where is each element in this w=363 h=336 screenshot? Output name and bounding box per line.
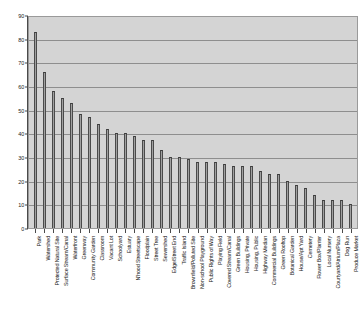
bar — [349, 204, 352, 228]
bar-slot — [328, 17, 337, 228]
y-axis-tick-label: 80 — [18, 37, 24, 43]
y-axis-tick-label: 10 — [18, 202, 24, 208]
bar — [61, 98, 64, 228]
bar — [106, 129, 109, 228]
x-axis-label-slot: Surface Stream/Canal — [57, 236, 66, 336]
x-axis-tick-mark — [125, 229, 126, 233]
bar — [223, 164, 226, 228]
bar-slot — [148, 17, 157, 228]
bar — [295, 185, 298, 228]
x-axis-tick-mark — [216, 229, 217, 233]
bar-slot — [238, 17, 247, 228]
x-axis-labels: ParkWatershedProtected Natural SiteSurfa… — [28, 236, 358, 336]
bar — [169, 157, 172, 228]
x-axis-label-slot: Courtyard/Atrium/Plaza — [329, 236, 338, 336]
bar — [79, 114, 82, 228]
bar — [331, 200, 334, 228]
x-axis-label-slot: Schoolyard — [112, 236, 121, 336]
bar — [43, 72, 46, 228]
x-axis-label-slot: Waterfront — [66, 236, 75, 336]
x-axis-label-slot: Cemetery — [302, 236, 311, 336]
bar-slot — [211, 17, 220, 228]
bar — [52, 91, 55, 228]
x-axis-tick-mark — [62, 229, 63, 233]
bar-slot — [229, 17, 238, 228]
bar — [97, 124, 100, 228]
y-axis-tick-label: 50 — [18, 108, 24, 114]
x-axis-tick-mark — [225, 229, 226, 233]
y-axis-tick-label: 70 — [18, 60, 24, 66]
bar-series — [29, 17, 357, 228]
x-axis-tick-mark — [44, 229, 45, 233]
x-axis-label-slot: House/Apt Yard — [293, 236, 302, 336]
bar-slot — [40, 17, 49, 228]
x-axis-label-slot: N'hood Streetscape — [130, 236, 139, 336]
x-axis-label-slot: Street Tree — [148, 236, 157, 336]
bar — [70, 103, 73, 228]
x-axis-tick-mark — [71, 229, 72, 233]
bar — [115, 133, 118, 228]
x-axis-tick-mark — [53, 229, 54, 233]
x-axis-tick-mark — [170, 229, 171, 233]
x-axis-tick-mark — [351, 229, 352, 233]
bar — [151, 140, 154, 228]
x-axis-label-slot: Commercial Buildings — [266, 236, 275, 336]
bar-slot — [103, 17, 112, 228]
x-axis-tick-mark — [198, 229, 199, 233]
x-axis-tick-mark — [342, 229, 343, 233]
y-axis-tick-label: 60 — [18, 84, 24, 90]
x-axis-tick-mark — [107, 229, 108, 233]
bar-slot — [157, 17, 166, 228]
bar-slot — [310, 17, 319, 228]
x-axis-label-slot: Highway Median — [257, 236, 266, 336]
y-axis-tick-label: 0 — [21, 226, 24, 232]
bar-slot — [346, 17, 355, 228]
bar — [178, 157, 181, 228]
x-axis-tick-mark — [188, 229, 189, 233]
bar — [124, 133, 127, 228]
bar-slot — [94, 17, 103, 228]
bar-slot — [85, 17, 94, 228]
bar-slot — [76, 17, 85, 228]
bar-slot — [193, 17, 202, 228]
bar — [214, 162, 217, 228]
bar — [322, 200, 325, 228]
y-axis-tick-label: 20 — [18, 179, 24, 185]
x-axis-tick-mark — [80, 229, 81, 233]
x-axis-label-slot: Traffic Island — [175, 236, 184, 336]
x-axis-label-slot: Sewershed — [157, 236, 166, 336]
x-axis-label-slot: Protected Natural Site — [48, 236, 57, 336]
bar — [286, 181, 289, 228]
bar-slot — [49, 17, 58, 228]
bar — [160, 150, 163, 228]
bar-slot — [319, 17, 328, 228]
bar-slot — [139, 17, 148, 228]
y-axis-tick-label: 30 — [18, 155, 24, 161]
x-axis-label-slot: Estuary — [121, 236, 130, 336]
plot-area — [28, 16, 358, 229]
y-axis-tick-label: 40 — [18, 131, 24, 137]
bar — [205, 162, 208, 228]
bar — [304, 188, 307, 228]
bar — [88, 117, 91, 228]
x-axis-label-slot: Flower Box/Planter — [311, 236, 320, 336]
x-axis-tick-mark — [179, 229, 180, 233]
x-axis-label-slot: Local Nursery — [320, 236, 329, 336]
bar-slot — [112, 17, 121, 228]
x-axis-label-slot: Park — [30, 236, 39, 336]
x-axis-tick-mark — [152, 229, 153, 233]
x-axis-label-slot: Botanical Garden — [284, 236, 293, 336]
bar-slot — [256, 17, 265, 228]
x-axis-tick-mark — [279, 229, 280, 233]
x-axis-tick-label: Produce Market — [354, 236, 359, 272]
x-axis-tick-mark — [143, 229, 144, 233]
x-axis-tick-mark — [234, 229, 235, 233]
x-axis-tick-mark — [243, 229, 244, 233]
x-axis-tick-mark — [288, 229, 289, 233]
x-axis-tick-mark — [261, 229, 262, 233]
x-axis-label-slot: Covered Stream/Canal — [220, 236, 229, 336]
x-axis-label-slot: Produce Market — [347, 236, 356, 336]
x-axis-label-slot: Community Garden — [84, 236, 93, 336]
x-axis-tick-mark — [297, 229, 298, 233]
bar — [250, 166, 253, 228]
